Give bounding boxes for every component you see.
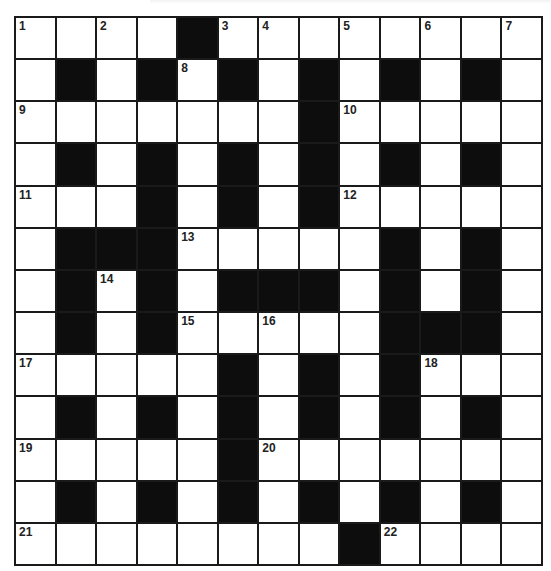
crossword-cell[interactable] bbox=[57, 18, 96, 58]
crossword-cell[interactable] bbox=[502, 271, 541, 311]
crossword-cell[interactable]: 10 bbox=[340, 102, 379, 142]
crossword-cell[interactable] bbox=[421, 271, 460, 311]
crossword-cell[interactable] bbox=[16, 313, 55, 353]
crossword-cell[interactable]: 8 bbox=[178, 60, 217, 100]
crossword-cell[interactable] bbox=[300, 313, 339, 353]
crossword-cell[interactable] bbox=[340, 440, 379, 480]
crossword-cell[interactable] bbox=[16, 397, 55, 437]
crossword-cell[interactable] bbox=[300, 524, 339, 564]
crossword-cell[interactable] bbox=[178, 271, 217, 311]
crossword-cell[interactable] bbox=[502, 60, 541, 100]
crossword-cell[interactable] bbox=[259, 187, 298, 227]
crossword-cell[interactable] bbox=[421, 397, 460, 437]
crossword-cell[interactable] bbox=[219, 313, 258, 353]
crossword-cell[interactable]: 1 bbox=[16, 18, 55, 58]
crossword-cell[interactable]: 2 bbox=[97, 18, 136, 58]
crossword-cell[interactable] bbox=[421, 60, 460, 100]
crossword-cell[interactable]: 19 bbox=[16, 440, 55, 480]
crossword-cell[interactable] bbox=[502, 355, 541, 395]
crossword-cell[interactable] bbox=[421, 482, 460, 522]
crossword-cell[interactable] bbox=[138, 524, 177, 564]
crossword-cell[interactable] bbox=[97, 60, 136, 100]
crossword-cell[interactable]: 12 bbox=[340, 187, 379, 227]
crossword-cell[interactable] bbox=[57, 524, 96, 564]
crossword-cell[interactable] bbox=[97, 397, 136, 437]
crossword-cell[interactable] bbox=[138, 355, 177, 395]
crossword-cell[interactable]: 14 bbox=[97, 271, 136, 311]
crossword-cell[interactable]: 17 bbox=[16, 355, 55, 395]
crossword-cell[interactable]: 4 bbox=[259, 18, 298, 58]
crossword-cell[interactable] bbox=[97, 187, 136, 227]
crossword-cell[interactable] bbox=[259, 144, 298, 184]
crossword-cell[interactable] bbox=[16, 144, 55, 184]
crossword-cell[interactable] bbox=[502, 397, 541, 437]
crossword-cell[interactable] bbox=[219, 102, 258, 142]
crossword-cell[interactable] bbox=[138, 18, 177, 58]
crossword-cell[interactable] bbox=[502, 187, 541, 227]
crossword-cell[interactable] bbox=[462, 524, 501, 564]
crossword-cell[interactable]: 15 bbox=[178, 313, 217, 353]
crossword-cell[interactable] bbox=[381, 102, 420, 142]
crossword-cell[interactable] bbox=[340, 144, 379, 184]
crossword-cell[interactable] bbox=[57, 187, 96, 227]
crossword-cell[interactable]: 22 bbox=[381, 524, 420, 564]
crossword-cell[interactable] bbox=[57, 102, 96, 142]
crossword-cell[interactable] bbox=[259, 524, 298, 564]
crossword-cell[interactable] bbox=[16, 482, 55, 522]
crossword-cell[interactable] bbox=[97, 440, 136, 480]
crossword-cell[interactable]: 20 bbox=[259, 440, 298, 480]
crossword-cell[interactable] bbox=[259, 60, 298, 100]
crossword-cell[interactable] bbox=[421, 102, 460, 142]
crossword-cell[interactable] bbox=[97, 102, 136, 142]
crossword-cell[interactable] bbox=[138, 102, 177, 142]
crossword-cell[interactable] bbox=[97, 524, 136, 564]
crossword-cell[interactable]: 21 bbox=[16, 524, 55, 564]
crossword-cell[interactable] bbox=[340, 397, 379, 437]
crossword-cell[interactable] bbox=[462, 440, 501, 480]
crossword-cell[interactable] bbox=[381, 18, 420, 58]
crossword-cell[interactable] bbox=[462, 355, 501, 395]
crossword-cell[interactable] bbox=[16, 271, 55, 311]
crossword-cell[interactable]: 18 bbox=[421, 355, 460, 395]
crossword-cell[interactable] bbox=[381, 187, 420, 227]
crossword-cell[interactable] bbox=[340, 355, 379, 395]
crossword-cell[interactable] bbox=[178, 102, 217, 142]
crossword-cell[interactable] bbox=[340, 60, 379, 100]
crossword-cell[interactable]: 6 bbox=[421, 18, 460, 58]
crossword-cell[interactable] bbox=[259, 397, 298, 437]
crossword-cell[interactable] bbox=[219, 229, 258, 269]
crossword-cell[interactable] bbox=[219, 524, 258, 564]
crossword-cell[interactable]: 9 bbox=[16, 102, 55, 142]
crossword-cell[interactable] bbox=[178, 355, 217, 395]
crossword-cell[interactable] bbox=[259, 102, 298, 142]
crossword-cell[interactable] bbox=[259, 355, 298, 395]
crossword-cell[interactable] bbox=[300, 440, 339, 480]
crossword-cell[interactable] bbox=[502, 482, 541, 522]
crossword-cell[interactable] bbox=[502, 313, 541, 353]
crossword-cell[interactable] bbox=[138, 440, 177, 480]
crossword-cell[interactable] bbox=[16, 60, 55, 100]
crossword-cell[interactable] bbox=[97, 482, 136, 522]
crossword-cell[interactable]: 11 bbox=[16, 187, 55, 227]
crossword-cell[interactable] bbox=[178, 144, 217, 184]
crossword-cell[interactable] bbox=[421, 229, 460, 269]
crossword-cell[interactable] bbox=[462, 187, 501, 227]
crossword-cell[interactable] bbox=[421, 187, 460, 227]
crossword-cell[interactable] bbox=[300, 229, 339, 269]
crossword-cell[interactable] bbox=[502, 144, 541, 184]
crossword-cell[interactable]: 5 bbox=[340, 18, 379, 58]
crossword-cell[interactable] bbox=[178, 524, 217, 564]
crossword-cell[interactable] bbox=[97, 313, 136, 353]
crossword-cell[interactable]: 16 bbox=[259, 313, 298, 353]
crossword-cell[interactable] bbox=[97, 144, 136, 184]
crossword-cell[interactable] bbox=[178, 440, 217, 480]
crossword-cell[interactable] bbox=[97, 355, 136, 395]
crossword-cell[interactable]: 13 bbox=[178, 229, 217, 269]
crossword-cell[interactable] bbox=[178, 482, 217, 522]
crossword-cell[interactable] bbox=[340, 313, 379, 353]
crossword-cell[interactable] bbox=[502, 102, 541, 142]
crossword-cell[interactable]: 7 bbox=[502, 18, 541, 58]
crossword-cell[interactable] bbox=[340, 271, 379, 311]
crossword-cell[interactable] bbox=[421, 524, 460, 564]
crossword-cell[interactable] bbox=[340, 482, 379, 522]
